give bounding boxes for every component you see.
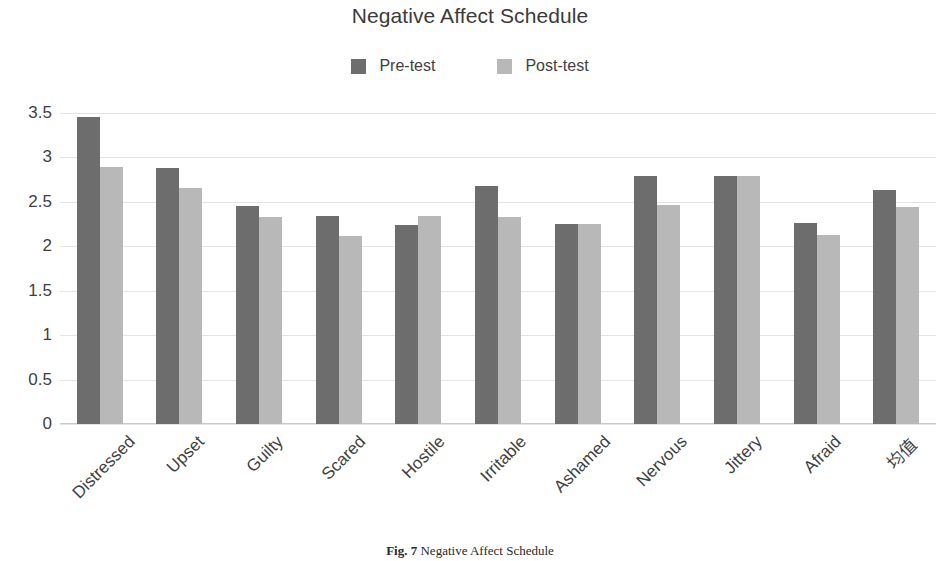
bar[interactable] xyxy=(578,224,601,424)
chart-title: Negative Affect Schedule xyxy=(0,4,940,28)
y-axis-tick-label: 0 xyxy=(43,414,52,434)
legend-item-pre-test[interactable]: Pre-test xyxy=(351,57,435,75)
x-axis-category-label: Hostile xyxy=(399,432,450,483)
bar-group xyxy=(475,113,521,424)
bar[interactable] xyxy=(316,216,339,424)
x-axis-category-label: Afraid xyxy=(800,432,846,478)
legend-swatch-icon xyxy=(497,59,512,74)
y-axis-tick-label: 2 xyxy=(43,236,52,256)
legend-swatch-icon xyxy=(351,59,366,74)
y-axis-tick-label: 3.5 xyxy=(28,103,52,123)
bar[interactable] xyxy=(259,217,282,424)
bar-group xyxy=(634,113,680,424)
bar[interactable] xyxy=(475,186,498,424)
figure-caption-text: Negative Affect Schedule xyxy=(420,543,553,558)
bar[interactable] xyxy=(236,206,259,424)
x-axis-category-label: Scared xyxy=(318,432,370,484)
chart-legend: Pre-test Post-test xyxy=(0,57,940,75)
bar-group xyxy=(77,113,123,424)
bar[interactable] xyxy=(498,217,521,424)
x-axis-category-label: Guilty xyxy=(243,432,288,477)
x-axis-category-label: Distressed xyxy=(68,432,139,503)
bar[interactable] xyxy=(873,190,896,424)
bar[interactable] xyxy=(156,168,179,424)
y-axis-tick-label: 2.5 xyxy=(28,192,52,212)
y-axis-tick-label: 0.5 xyxy=(28,370,52,390)
x-axis-category-label: Nervous xyxy=(633,432,692,491)
bar[interactable] xyxy=(634,176,657,424)
y-axis-labels: 00.511.522.533.5 xyxy=(0,113,52,424)
x-axis-category-label: Ashamed xyxy=(550,432,615,497)
bar-group xyxy=(395,113,441,424)
bar[interactable] xyxy=(395,225,418,424)
bars-layer xyxy=(60,113,936,424)
x-axis-category-label: 均值 xyxy=(880,432,922,474)
x-axis-category-label: Upset xyxy=(163,432,209,478)
bar[interactable] xyxy=(555,224,578,424)
bar-group xyxy=(794,113,840,424)
legend-label: Pre-test xyxy=(379,57,435,75)
bar[interactable] xyxy=(657,205,680,424)
y-axis-tick-label: 1 xyxy=(43,325,52,345)
bar[interactable] xyxy=(737,176,760,424)
x-axis-labels: DistressedUpsetGuiltyScaredHostileIrrita… xyxy=(60,424,936,534)
bar-group xyxy=(236,113,282,424)
figure-caption: Fig. 7 Negative Affect Schedule xyxy=(0,543,940,559)
x-axis-category-label: Irritable xyxy=(476,432,530,486)
bar[interactable] xyxy=(896,207,919,424)
bar-group xyxy=(714,113,760,424)
bar[interactable] xyxy=(714,176,737,424)
bar-group xyxy=(873,113,919,424)
y-axis-tick-label: 1.5 xyxy=(28,281,52,301)
bar-group xyxy=(156,113,202,424)
bar[interactable] xyxy=(100,167,123,424)
bar[interactable] xyxy=(77,117,100,424)
y-axis-tick-label: 3 xyxy=(43,147,52,167)
x-axis-category-label: Jittery xyxy=(720,432,766,478)
legend-label: Post-test xyxy=(525,57,588,75)
bar-group xyxy=(555,113,601,424)
bar[interactable] xyxy=(179,188,202,424)
bar[interactable] xyxy=(794,223,817,424)
bar[interactable] xyxy=(817,235,840,424)
figure-caption-number: Fig. 7 xyxy=(386,543,417,558)
bar-group xyxy=(316,113,362,424)
bar[interactable] xyxy=(418,216,441,424)
legend-item-post-test[interactable]: Post-test xyxy=(497,57,588,75)
bar[interactable] xyxy=(339,236,362,424)
